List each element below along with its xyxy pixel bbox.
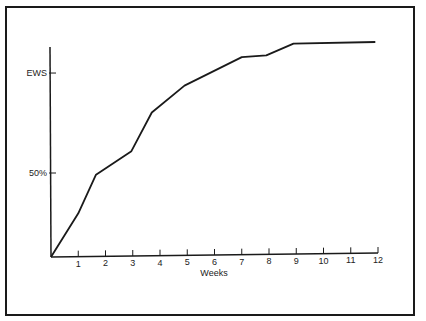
x-tick-label: 6 (212, 257, 217, 267)
x-tick-label: 11 (346, 255, 355, 265)
x-tick-label: 5 (185, 257, 190, 267)
x-tick-label: 4 (157, 258, 162, 268)
x-tick-label: 12 (373, 255, 383, 265)
x-tick-label: 9 (294, 256, 299, 266)
x-tick-label: 1 (76, 259, 81, 269)
line-chart: 123456789101112 50%EWS Weeks (0, 0, 426, 321)
x-tick-label: 10 (318, 256, 328, 266)
x-tick-label: 7 (239, 257, 244, 267)
axes (50, 47, 378, 257)
x-ticks: 123456789101112 (76, 247, 383, 269)
y-tick-label: 50% (29, 168, 47, 178)
x-tick-label: 3 (130, 258, 135, 268)
y-ticks: 50%EWS (26, 68, 56, 178)
y-tick-label: EWS (26, 68, 47, 78)
x-tick-label: 2 (103, 258, 108, 268)
data-line (51, 42, 375, 257)
y-axis (50, 47, 51, 257)
x-axis-label: Weeks (200, 268, 228, 278)
x-tick-label: 8 (266, 256, 271, 266)
